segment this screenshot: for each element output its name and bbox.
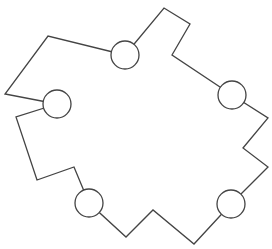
node-left-circle (43, 90, 71, 118)
node-bottom-left-circle (75, 189, 103, 217)
polygon-diagram (0, 0, 272, 249)
node-top-circle (111, 41, 139, 69)
node-right-lower-circle (217, 190, 245, 218)
node-group (43, 41, 246, 218)
node-right-upper-circle (218, 81, 246, 109)
